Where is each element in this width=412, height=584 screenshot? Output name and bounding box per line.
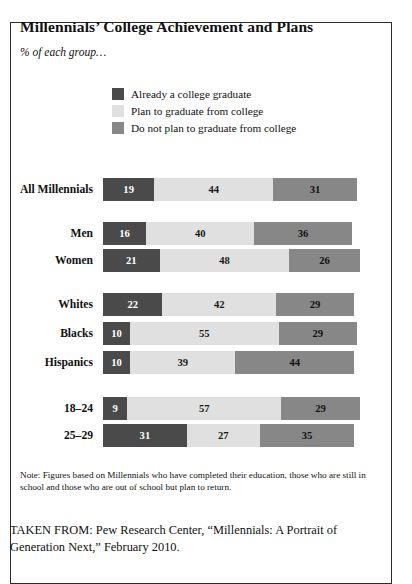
bar-segment-grad: 31 xyxy=(103,424,187,447)
bar-segment-grad: 10 xyxy=(103,322,130,345)
legend-swatch-noplan xyxy=(112,122,124,134)
bar-segment-plan: 55 xyxy=(130,322,279,345)
bar-segment-grad: 16 xyxy=(103,222,146,245)
chart-note: Note: Figures based on Millennials who h… xyxy=(20,470,366,493)
bar-segment-noplan: 36 xyxy=(254,222,351,245)
legend-label-noplan: Do not plan to graduate from college xyxy=(131,122,296,134)
legend-label-grad: Already a college graduate xyxy=(131,88,251,100)
chart-subtitle: % of each group… xyxy=(20,46,106,58)
bar-row-label: Men xyxy=(0,222,93,245)
legend-item-noplan: Do not plan to graduate from college xyxy=(112,120,296,136)
bar-row-label: Blacks xyxy=(0,322,93,345)
bar-row-label: 25–29 xyxy=(0,424,93,447)
bar-track: 103944 xyxy=(103,351,354,374)
bar-segment-noplan: 29 xyxy=(281,397,359,420)
bar-segment-grad: 21 xyxy=(103,249,160,272)
bar-track: 224229 xyxy=(103,293,354,316)
bar-track: 214826 xyxy=(103,249,360,272)
bar-segment-noplan: 35 xyxy=(260,424,355,447)
bar-segment-noplan: 31 xyxy=(273,178,357,201)
legend-swatch-grad xyxy=(112,88,124,100)
bar-segment-plan: 40 xyxy=(146,222,254,245)
bar-row-label: Women xyxy=(0,249,93,272)
bar-row-label: Hispanics xyxy=(0,351,93,374)
chart-legend: Already a college graduatePlan to gradua… xyxy=(112,86,296,137)
bar-row-label: Whites xyxy=(0,293,93,316)
bar-segment-grad: 10 xyxy=(103,351,130,374)
bar-track: 95729 xyxy=(103,397,360,420)
bar-segment-noplan: 29 xyxy=(276,293,354,316)
page-title: Millennials’ College Achievement and Pla… xyxy=(20,18,313,36)
bar-row-label: 18–24 xyxy=(0,397,93,420)
bar-track: 164036 xyxy=(103,222,352,245)
legend-item-plan: Plan to graduate from college xyxy=(112,103,296,119)
legend-label-plan: Plan to graduate from college xyxy=(131,105,263,117)
bar-track: 312735 xyxy=(103,424,354,447)
bar-segment-noplan: 29 xyxy=(279,322,357,345)
bar-segment-plan: 44 xyxy=(154,178,273,201)
bar-segment-plan: 39 xyxy=(130,351,235,374)
bar-segment-plan: 48 xyxy=(160,249,290,272)
bar-segment-grad: 9 xyxy=(103,397,127,420)
bar-segment-plan: 57 xyxy=(127,397,281,420)
bar-track: 105529 xyxy=(103,322,357,345)
bar-segment-grad: 22 xyxy=(103,293,162,316)
bar-segment-plan: 42 xyxy=(162,293,275,316)
bar-segment-noplan: 44 xyxy=(235,351,354,374)
legend-item-grad: Already a college graduate xyxy=(112,86,296,102)
bar-segment-plan: 27 xyxy=(187,424,260,447)
bar-segment-grad: 19 xyxy=(103,178,154,201)
bar-row-label: All Millennials xyxy=(0,178,93,201)
source-attribution: TAKEN FROM: Pew Research Center, “Millen… xyxy=(10,522,382,556)
bar-track: 194431 xyxy=(103,178,357,201)
bar-segment-noplan: 26 xyxy=(289,249,359,272)
legend-swatch-plan xyxy=(112,105,124,117)
